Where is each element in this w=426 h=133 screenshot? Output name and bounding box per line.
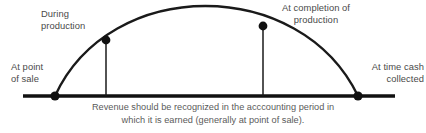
- node-dot-at-point-of-sale: [50, 91, 59, 100]
- node-dot-during-production: [102, 36, 111, 45]
- diagram-caption: Revenue should be recognized in the accc…: [0, 101, 426, 126]
- label-at-completion-of-production: At completion of production: [256, 2, 376, 25]
- node-dot-at-time-cash-collected: [353, 91, 362, 100]
- label-at-point-of-sale: At point of sale: [11, 61, 43, 84]
- caption-line-2: which it is earned (generally at point o…: [0, 114, 426, 127]
- label-during-production: During production: [41, 8, 85, 31]
- caption-line-1: Revenue should be recognized in the accc…: [0, 101, 426, 114]
- label-at-time-cash-collected: At time cash collected: [372, 61, 424, 84]
- revenue-recognition-diagram: During production At completion of produ…: [0, 0, 426, 133]
